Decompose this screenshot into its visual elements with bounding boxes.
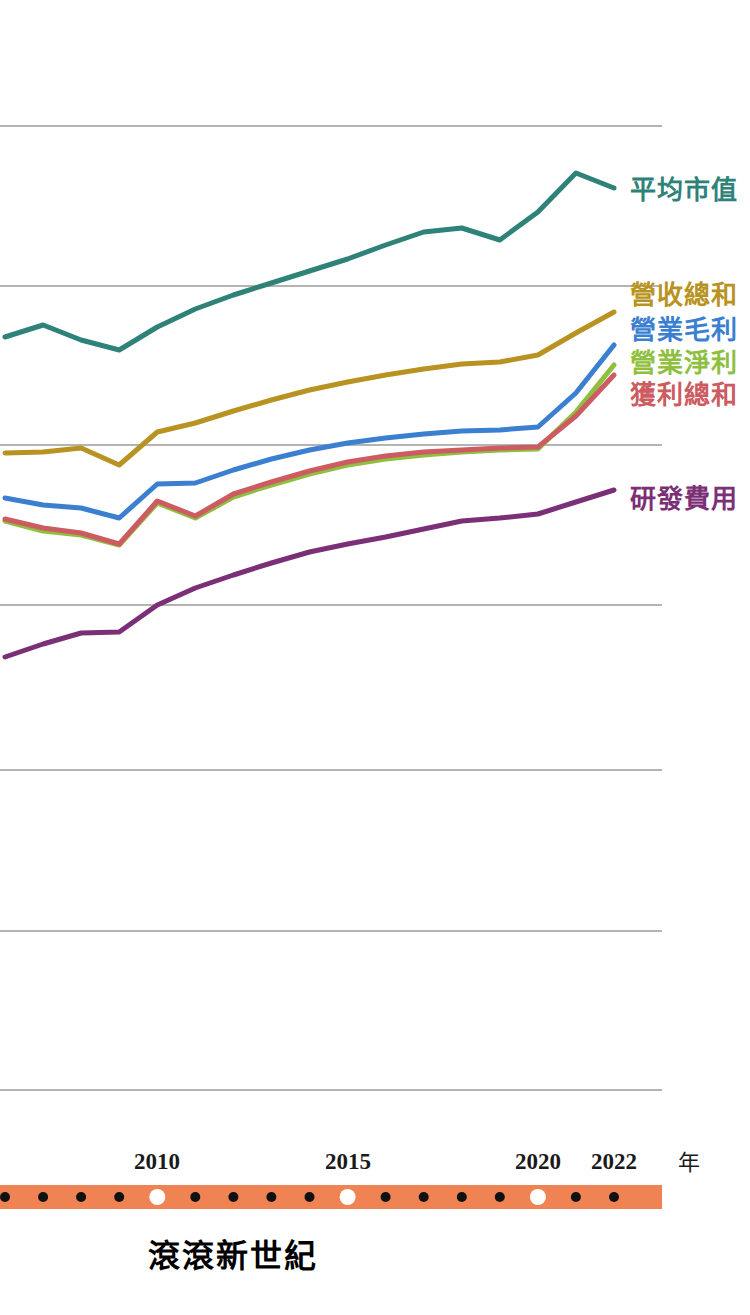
chart-figure: 平均市值營收總和營業毛利營業淨利獲利總和研發費用 201020152020202… [0,0,750,1315]
x-axis-unit-label: 年 [678,1152,700,1174]
x-axis-dot-2010[interactable] [149,1189,165,1205]
x-axis-dot-2015[interactable] [340,1189,356,1205]
x-axis-dot-2008[interactable] [76,1192,86,1202]
legend-label-營收總和[interactable]: 營收總和 [630,283,738,309]
x-axis-dot-2021[interactable] [571,1192,581,1202]
x-axis-dot-2009[interactable] [114,1192,124,1202]
series-line-營收總和 [5,312,614,465]
figure-caption: 滾滾新世紀 [148,1240,318,1272]
series-line-獲利總和 [5,375,614,544]
x-axis-dot-2007[interactable] [38,1192,48,1202]
legend-label-研發費用[interactable]: 研發費用 [630,487,738,513]
x-axis-dot-2014[interactable] [305,1192,315,1202]
legend-label-獲利總和[interactable]: 獲利總和 [630,383,738,409]
x-axis-dot-2019[interactable] [495,1192,505,1202]
x-axis-tick-2022: 2022 [591,1150,637,1173]
x-axis-dot-2011[interactable] [190,1192,200,1202]
x-axis-dot-2020[interactable] [530,1189,546,1205]
legend-label-營業毛利[interactable]: 營業毛利 [630,318,738,344]
x-axis-tick-2020: 2020 [515,1150,561,1173]
x-axis-dot-2013[interactable] [266,1192,276,1202]
x-axis-tick-2015: 2015 [325,1150,371,1173]
x-axis-band [0,1185,662,1209]
x-axis-dot-2012[interactable] [228,1192,238,1202]
x-axis-dot-2006[interactable] [0,1192,10,1202]
x-axis-tick-2010: 2010 [134,1150,180,1173]
series-line-營業毛利 [5,345,614,518]
x-axis-band-rect [0,1185,662,1209]
series-line-平均市值 [5,173,614,350]
x-axis-dot-2016[interactable] [381,1192,391,1202]
gridlines [0,126,662,1090]
series-lines [5,173,614,657]
x-axis-dot-2017[interactable] [419,1192,429,1202]
series-line-研發費用 [5,490,614,657]
x-axis-dot-2018[interactable] [457,1192,467,1202]
legend-label-平均市值[interactable]: 平均市值 [630,178,738,204]
x-axis-dot-2022[interactable] [609,1192,619,1202]
legend-label-營業淨利[interactable]: 營業淨利 [630,351,738,377]
